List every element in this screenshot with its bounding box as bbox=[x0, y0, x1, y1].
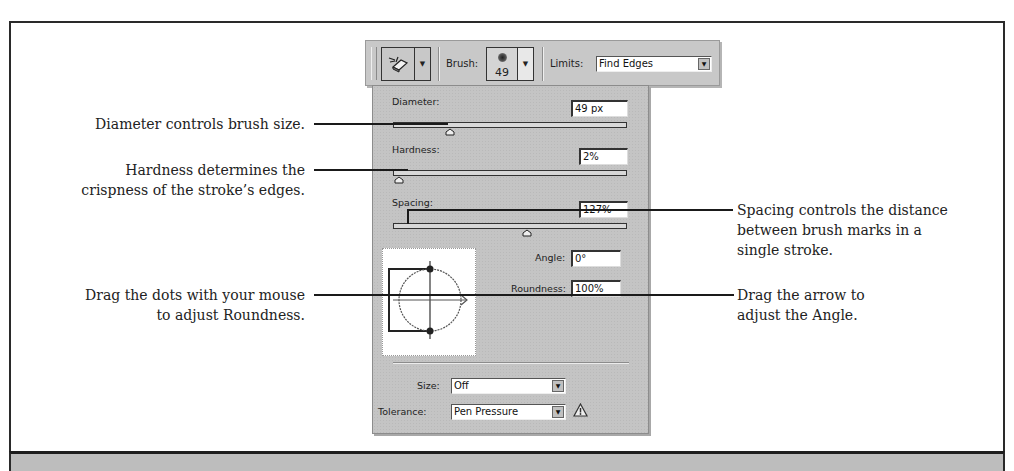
angle-caption: Drag the arrow to adjust the Angle. bbox=[737, 285, 997, 325]
size-label: Size: bbox=[417, 380, 440, 391]
slider-thumb-icon[interactable] bbox=[394, 176, 404, 184]
angle-label: Angle: bbox=[535, 252, 565, 263]
roundness-dot-handle bbox=[427, 328, 434, 335]
caption-band bbox=[9, 451, 1005, 471]
diameter-input[interactable]: 49 px bbox=[571, 100, 628, 117]
limits-value: Find Edges bbox=[599, 58, 653, 69]
chevron-down-icon: ▼ bbox=[420, 60, 425, 68]
brush-settings-panel: Diameter: 49 px Hardness: 2% Spacing: 12… bbox=[372, 85, 649, 434]
brush-tip-icon bbox=[498, 53, 507, 62]
angle-input[interactable]: 0° bbox=[571, 250, 621, 267]
brush-shape-editor[interactable] bbox=[382, 248, 476, 356]
angle-roundness-diagram bbox=[383, 249, 477, 357]
chevron-down-icon: ▼ bbox=[552, 406, 564, 418]
diameter-callout-line bbox=[314, 123, 448, 125]
spacing-label: Spacing: bbox=[392, 197, 433, 208]
tool-preset-dropdown[interactable]: ▼ bbox=[415, 47, 431, 81]
diameter-caption: Diameter controls brush size. bbox=[40, 114, 305, 134]
slider-thumb-icon[interactable] bbox=[522, 229, 532, 237]
brush-label: Brush: bbox=[446, 58, 478, 69]
chevron-down-icon: ▼ bbox=[552, 380, 564, 392]
toolbar-grip[interactable] bbox=[371, 47, 377, 80]
tolerance-label: Tolerance: bbox=[378, 406, 427, 417]
separator bbox=[542, 47, 544, 81]
section-divider bbox=[393, 362, 629, 364]
hardness-callout-line bbox=[314, 169, 408, 171]
options-bar: ▼ Brush: 49 ▼ Limits: Find Edges ▼ bbox=[365, 40, 720, 86]
roundness-dot-handle bbox=[427, 266, 434, 273]
tool-preset-button[interactable] bbox=[381, 47, 415, 81]
size-value: Off bbox=[454, 380, 469, 391]
chevron-down-icon: ▼ bbox=[523, 60, 528, 68]
background-eraser-icon bbox=[386, 54, 410, 74]
brush-preview-button[interactable]: 49 bbox=[486, 47, 518, 81]
hardness-label: Hardness: bbox=[392, 144, 440, 155]
angle-roundness-callout-line bbox=[314, 294, 734, 296]
size-select[interactable]: Off ▼ bbox=[451, 378, 566, 394]
roundness-caption: Drag the dots with your mouse to adjust … bbox=[20, 285, 305, 325]
limits-label: Limits: bbox=[550, 58, 583, 69]
chevron-down-icon: ▼ bbox=[698, 58, 710, 70]
brush-picker-dropdown[interactable]: ▼ bbox=[518, 47, 534, 81]
spacing-slider[interactable] bbox=[393, 223, 627, 229]
hardness-input[interactable]: 2% bbox=[579, 148, 628, 165]
warning-triangle-icon bbox=[573, 403, 588, 417]
diameter-label: Diameter: bbox=[392, 96, 439, 107]
roundness-label: Roundness: bbox=[511, 283, 566, 294]
tolerance-select[interactable]: Pen Pressure ▼ bbox=[451, 404, 566, 420]
slider-thumb-icon[interactable] bbox=[445, 128, 455, 136]
hardness-caption: Hardness determines the crispness of the… bbox=[20, 160, 305, 200]
spacing-caption: Spacing controls the distance between br… bbox=[737, 200, 997, 260]
limits-select[interactable]: Find Edges ▼ bbox=[596, 56, 712, 72]
tolerance-value: Pen Pressure bbox=[454, 406, 518, 417]
separator bbox=[438, 47, 440, 81]
hardness-slider[interactable] bbox=[393, 170, 627, 176]
brush-size-value: 49 bbox=[487, 66, 517, 79]
spacing-callout-leg bbox=[407, 209, 409, 224]
spacing-callout-line bbox=[407, 209, 733, 211]
